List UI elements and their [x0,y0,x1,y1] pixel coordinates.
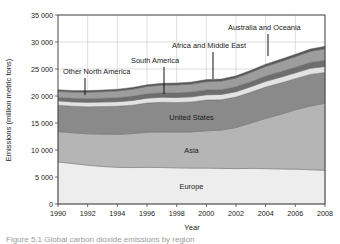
x-tick-label: 2008 [317,209,333,218]
y-tick-label: 35 000 [31,11,53,20]
x-tick-label: 2006 [287,209,303,218]
figure-caption: Figure 5.1 Global carbon dioxide emissio… [6,234,336,244]
y-tick-label: 10 000 [31,146,53,155]
series-callout-label-south-america: South America [131,56,180,65]
series-callout-label-australia-and-oceania: Australia and Oceania [228,23,302,32]
y-tick-label: 5 000 [35,173,53,182]
x-tick-label: 1994 [109,209,125,218]
x-tick-label: 2000 [198,209,214,218]
emissions-stacked-area-chart: 05 00010 00015 00020 00025 00030 00035 0… [0,0,340,244]
y-tick-label: 15 000 [31,119,53,128]
x-axis-title: Year [184,223,200,232]
x-tick-label: 1992 [80,209,96,218]
series-callout-label-other-north-america: Other North America [63,67,131,76]
x-tick-label: 1996 [139,209,155,218]
x-tick-label: 1998 [169,209,185,218]
series-callout-label-africa-and-middle-east: Africa and Middle East [172,41,246,50]
series-label-united-states: United States [169,113,214,122]
y-tick-label: 0 [49,200,53,209]
x-tick-label: 2002 [228,209,244,218]
y-tick-label: 25 000 [31,65,53,74]
y-axis-title: Emissions (million metric tons) [4,58,13,161]
y-tick-label: 20 000 [31,92,53,101]
y-tick-label: 30 000 [31,38,53,47]
x-tick-label: 2004 [258,209,274,218]
series-label-europe: Europe [180,182,204,191]
figure-container: 05 00010 00015 00020 00025 00030 00035 0… [0,0,340,244]
series-label-asia: Asia [184,146,199,155]
x-tick-label: 1990 [50,209,66,218]
